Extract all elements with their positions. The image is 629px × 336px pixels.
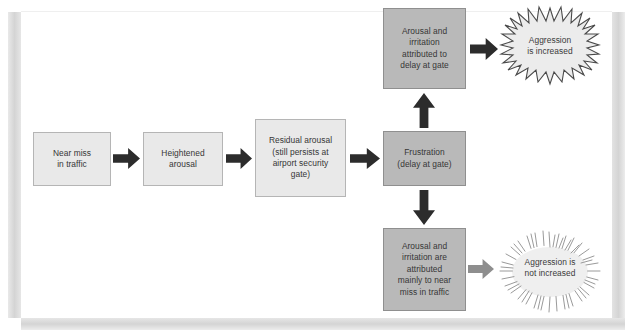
arrow-right-icon-near-miss-to-heightened	[113, 148, 140, 169]
outcome-label: Aggression isnot increased	[494, 257, 606, 280]
node-attribution-near-miss-in-traffic: Arousal andirritation areattributedmainl…	[383, 228, 466, 311]
node-heightened-arousal: Heightenedarousal	[143, 132, 223, 186]
node-label: Heightenedarousal	[161, 148, 204, 171]
arrow-up-icon-frustration-to-gate-attribution	[413, 93, 435, 128]
node-residual-arousal: Residual arousal(still persists atairpor…	[255, 119, 346, 197]
node-attribution-delay-at-gate: Arousal andirritationattributed todelay …	[383, 8, 466, 89]
arrow-right-icon-residual-to-frustration	[350, 148, 380, 169]
arrow-right-icon-heightened-to-residual	[226, 148, 252, 169]
node-label: Near missin traffic	[53, 148, 91, 171]
outcome-label: Aggressionis increased	[494, 35, 606, 58]
outcome-burst-aggression-increased: Aggressionis increased	[494, 4, 606, 96]
arrow-down-icon-frustration-to-traffic-attribution	[413, 190, 435, 225]
node-label: Residual arousal(still persists atairpor…	[269, 135, 332, 181]
node-label: Arousal andirritation areattributedmainl…	[398, 241, 451, 298]
node-near-miss-in-traffic: Near missin traffic	[33, 132, 111, 186]
arrow-right-icon-to-aggression-not-increased	[468, 259, 494, 279]
page-edge-right-bar	[612, 12, 625, 318]
node-frustration-delay-at-gate: Frustration(delay at gate)	[383, 131, 466, 186]
diagram-canvas: Near missin traffic Heightenedarousal Re…	[0, 0, 629, 336]
node-label: Arousal andirritationattributed todelay …	[400, 26, 449, 72]
page-edge-left-bar	[8, 12, 21, 318]
node-label: Frustration(delay at gate)	[397, 147, 451, 170]
outcome-burst-aggression-not-increased: Aggression isnot increased	[494, 224, 606, 320]
